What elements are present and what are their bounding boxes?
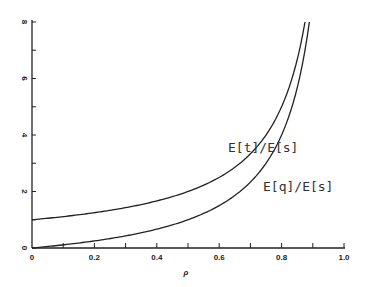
line-eq-es [32,22,309,248]
x-tick-label: 0.8 [276,253,288,262]
chart: 02468 00.20.40.60.81.0 ρ E[t]/E[s] E[q]/… [0,0,366,287]
y-tick-label: 2 [20,189,29,194]
x-tick-label: 1.0 [338,253,350,262]
x-tick-label: 0 [30,253,35,262]
x-tick-label: 0.4 [151,253,163,262]
x-axis-label: ρ [183,268,189,277]
y-tick-label: 6 [20,76,29,81]
y-tick-label: 4 [20,133,29,138]
x-tick-label: 0.6 [214,253,226,262]
x-ticks: 00.20.40.60.81.0 [30,243,350,262]
x-tick-label: 0.2 [89,253,101,262]
annotation-et-es: E[t]/E[s] [228,140,298,155]
y-tick-label: 8 [20,20,29,25]
annotation-eq-es: E[q]/E[s] [263,179,333,194]
y-ticks: 02468 [20,20,36,251]
series-lines [32,22,309,248]
y-tick-label: 0 [20,246,29,251]
